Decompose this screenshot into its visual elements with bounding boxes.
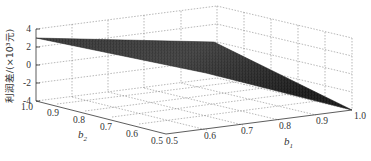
- svg-text:0.5: 0.5: [166, 136, 178, 146]
- b2-tick-labels: 1.0 0.9 0.8 0.7 0.6 0.5: [21, 102, 163, 146]
- svg-text:2: 2: [26, 42, 31, 52]
- svg-text:0.9: 0.9: [47, 108, 59, 118]
- b1-tick-labels: 0.5 0.6 0.7 0.8 0.9 1.0: [166, 111, 366, 146]
- z-axis-label: 利润差/(×10³元): [4, 29, 15, 103]
- surface-chart: 4 2 0 -2 -4 利润差/(×10³元) 1.0 0.9 0.8 0.7 …: [0, 0, 371, 161]
- svg-text:0.8: 0.8: [279, 121, 291, 131]
- z-tick-labels: 4 2 0 -2 -4: [23, 24, 31, 106]
- figure-caption-cropped: [118, 156, 268, 161]
- svg-text:0.6: 0.6: [126, 129, 138, 139]
- svg-text:0.9: 0.9: [316, 116, 328, 126]
- svg-text:0.5: 0.5: [151, 136, 163, 146]
- svg-text:0.8: 0.8: [73, 115, 85, 125]
- svg-text:0.6: 0.6: [204, 131, 216, 141]
- b1-axis-label: b1: [284, 135, 293, 150]
- svg-text:1.0: 1.0: [21, 102, 33, 112]
- svg-text:1.0: 1.0: [354, 111, 366, 121]
- svg-text:4: 4: [26, 24, 31, 34]
- svg-text:0.7: 0.7: [241, 126, 253, 136]
- b2-axis-label: b2: [78, 128, 88, 143]
- svg-text:0: 0: [26, 60, 31, 70]
- svg-text:-2: -2: [23, 78, 31, 88]
- svg-text:0.7: 0.7: [100, 122, 112, 132]
